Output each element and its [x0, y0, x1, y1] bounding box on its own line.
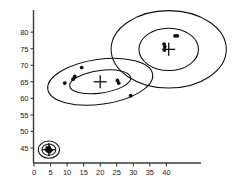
x-tick-label: 20: [96, 168, 104, 177]
data-point: [163, 48, 167, 52]
data-point: [63, 81, 67, 85]
data-point: [45, 148, 49, 152]
y-tick-label: 55: [20, 111, 28, 120]
x-tick-label: 30: [129, 168, 137, 177]
y-tick-label: 80: [20, 28, 28, 37]
cluster-layer: [38, 11, 226, 159]
y-tick-label: 50: [20, 127, 28, 136]
data-point: [163, 45, 167, 49]
y-axis: 4550556065707580: [20, 10, 33, 163]
x-axis: 0510152025303540: [32, 163, 201, 177]
data-point: [80, 66, 84, 70]
data-point: [49, 148, 53, 152]
x-tick-label: 10: [63, 168, 71, 177]
y-tick-label: 60: [20, 94, 28, 103]
x-tick-label: 35: [146, 168, 154, 177]
y-tick-label: 65: [20, 78, 28, 87]
data-point: [129, 94, 133, 98]
plot-canvas: 4550556065707580 0510152025303540: [0, 0, 235, 189]
x-tick-label: 25: [113, 168, 121, 177]
data-point: [117, 81, 121, 85]
data-point: [73, 75, 77, 79]
y-tick-label: 45: [20, 144, 28, 153]
x-tick-label: 0: [32, 168, 36, 177]
y-tick-label: 75: [20, 45, 28, 54]
data-point: [175, 34, 179, 38]
x-tick-label: 15: [79, 168, 87, 177]
scatter-plot-figure: 4550556065707580 0510152025303540: [0, 0, 235, 189]
x-tick-label: 5: [48, 168, 52, 177]
cluster-cluster-upper-right: [111, 11, 226, 88]
cluster-cluster-low-left: [38, 141, 59, 158]
x-tick-label: 40: [162, 168, 170, 177]
y-tick-label: 70: [20, 61, 28, 70]
cluster-cluster-middle: [45, 52, 156, 111]
